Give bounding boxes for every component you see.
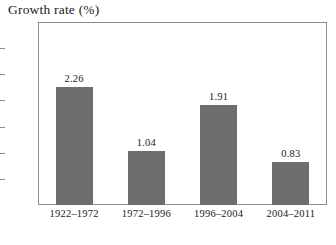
y-axis-tick-mark xyxy=(0,100,5,101)
bar-value-label: 1.91 xyxy=(209,91,228,102)
bar-value-label: 1.04 xyxy=(137,137,156,148)
bar-group[interactable]: 0.83 xyxy=(272,22,309,205)
bar-value-label: 2.26 xyxy=(65,73,84,84)
x-axis-category-label: 1996–2004 xyxy=(183,208,255,219)
bar-chart-figure: Growth rate (%) 0.000.501.001.502.002.50… xyxy=(0,0,336,245)
bar-value-label: 0.83 xyxy=(281,148,300,159)
bar-group[interactable]: 1.91 xyxy=(200,22,237,205)
y-axis: 0.000.501.001.502.002.503.003.50 xyxy=(0,22,38,205)
bars-layer: 2.261.041.910.83 xyxy=(38,22,327,205)
bar[interactable] xyxy=(272,162,309,205)
chart-title: Growth rate (%) xyxy=(8,2,99,18)
bar[interactable] xyxy=(128,151,165,205)
x-axis-category-label: 2004–2011 xyxy=(255,208,327,219)
x-axis-category-label: 1972–1996 xyxy=(110,208,182,219)
bar[interactable] xyxy=(200,105,237,205)
y-axis-tick-mark xyxy=(0,48,5,49)
bar-group[interactable]: 1.04 xyxy=(128,22,165,205)
y-axis-tick-mark xyxy=(0,127,5,128)
y-axis-tick-mark xyxy=(0,74,5,75)
y-axis-tick-mark xyxy=(0,153,5,154)
x-axis: 1922–19721972–19961996–20042004–2011 xyxy=(38,208,327,232)
y-axis-tick-mark xyxy=(0,179,5,180)
x-axis-category-label: 1922–1972 xyxy=(38,208,110,219)
bar-group[interactable]: 2.26 xyxy=(56,22,93,205)
bar[interactable] xyxy=(56,87,93,205)
